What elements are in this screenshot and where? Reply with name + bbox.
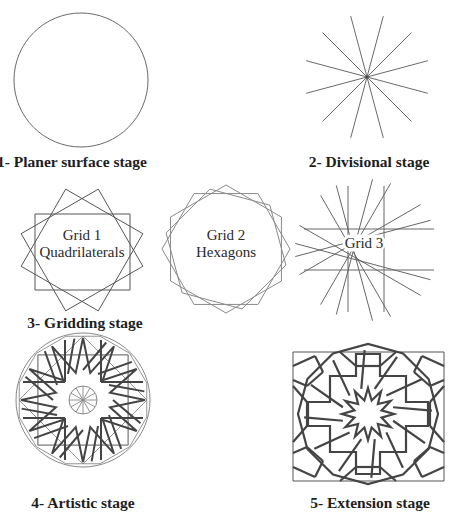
pattern-stages-figure: 1- Planer surface stage 2- Divisional st… xyxy=(0,0,452,524)
caption-stage-2: 2- Divisional stage xyxy=(309,153,430,171)
caption-stage-3: 3- Gridding stage xyxy=(27,314,142,332)
grid3-label-line1: Grid 3 xyxy=(345,235,384,252)
grid2-label-line1: Grid 2 xyxy=(196,227,256,244)
extension-pattern xyxy=(293,344,444,484)
grid2-label: Grid 2 Hexagons xyxy=(196,227,256,261)
stage-drawings xyxy=(0,0,452,524)
caption-stage-1: 1- Planer surface stage xyxy=(0,153,147,171)
grid1-label: Grid 1 Quadrilaterals xyxy=(40,227,125,261)
grid2-label-line2: Hexagons xyxy=(196,244,256,261)
grid3-label: Grid 3 xyxy=(343,235,386,252)
caption-stage-5: 5- Extension stage xyxy=(310,494,430,512)
artistic-pattern xyxy=(16,333,150,467)
caption-stage-4: 4- Artistic stage xyxy=(31,494,134,512)
divisional-star xyxy=(306,16,428,138)
planer-surface-circle xyxy=(14,13,148,147)
grid1-label-line2: Quadrilaterals xyxy=(40,244,125,261)
grid1-label-line1: Grid 1 xyxy=(40,227,125,244)
